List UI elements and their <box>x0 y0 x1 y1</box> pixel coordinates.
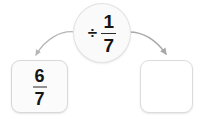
operator-oval: ÷ 1 7 <box>73 3 131 63</box>
left-operand-denominator: 7 <box>34 89 44 107</box>
operator-operand-fraction: 1 7 <box>101 12 116 55</box>
left-operand-card: 6 7 <box>11 60 68 113</box>
arrow-operator-to-answer <box>129 32 166 54</box>
operator-operand-numerator: 1 <box>103 12 114 31</box>
operator-content: ÷ 1 7 <box>88 12 116 55</box>
left-operand-fraction: 6 7 <box>12 66 67 107</box>
fraction-division-diagram: 6 7 ÷ 1 7 <box>0 0 203 119</box>
left-operand-fraction-bar <box>33 86 47 87</box>
arrow-left-operand-to-operator <box>36 32 75 55</box>
answer-box[interactable] <box>140 60 193 113</box>
operator-operand-denominator: 7 <box>103 36 114 55</box>
divide-icon: ÷ <box>88 24 97 41</box>
left-operand-numerator: 6 <box>34 66 44 84</box>
operator-operand-fraction-bar <box>101 33 116 34</box>
